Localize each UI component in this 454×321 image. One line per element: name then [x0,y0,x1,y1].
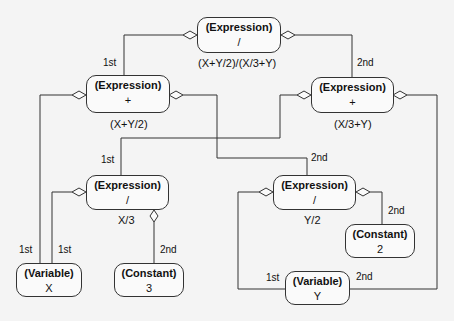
node-caption: (X+Y/2)/(X/3+Y) [198,57,276,69]
node-kind: (Variable) [17,266,81,281]
aggregation-diamond-icon [281,31,295,39]
node-value: 2 [346,242,414,257]
edge-label-plus-right-2nd: 2nd [356,271,373,283]
node-operator: / [274,193,355,208]
node-constant-3[interactable]: (Constant) 3 [114,263,184,297]
aggregation-diamond-icon [72,91,86,99]
edge-label-div-y2-1st: 1st [266,272,279,284]
edge-label-plus-right-1st: 1st [101,154,114,166]
edge-label-div-x3-1st: 1st [58,244,71,256]
aggregation-diamond-icon [393,91,407,99]
edge-label-plus-left-2nd: 2nd [311,152,328,164]
node-kind: (Expression) [274,178,355,193]
node-constant-2[interactable]: (Constant) 2 [345,224,415,258]
node-kind: (Expression) [87,78,169,93]
aggregation-diamond-icon [297,91,311,99]
node-caption: Y/2 [304,214,321,226]
edge-label-plus-left-1st: 1st [19,244,32,256]
edge-plus-left-div-y2 [183,95,307,175]
node-variable-x[interactable]: (Variable) X [16,263,82,297]
node-operator: + [87,93,169,108]
aggregation-diamond-icon [356,188,370,196]
edge-label-root-2nd: 2nd [357,57,374,69]
node-kind: (Expression) [312,80,393,95]
node-caption: (X+Y/2) [110,118,148,130]
edge-root-plus-right [295,35,352,77]
node-operator: / [198,35,280,50]
aggregation-diamond-icon [169,91,183,99]
aggregation-diamond-icon [72,188,86,196]
node-kind: (Constant) [115,266,183,281]
node-variable-y[interactable]: (Variable) Y [285,271,350,305]
aggregation-diamond-icon [259,188,273,196]
edge-div-y2-const-2 [370,192,382,224]
node-operator: + [312,95,393,110]
node-value: X [17,281,81,296]
node-kind: (Expression) [198,20,280,35]
node-caption: (X/3+Y) [334,118,372,130]
node-kind: (Variable) [286,274,349,289]
node-caption: X/3 [118,214,135,226]
node-value: 3 [115,281,183,296]
node-value: Y [286,289,349,304]
aggregation-diamond-icon [183,31,197,39]
aggregation-diamond-icon [150,210,158,222]
edge-plus-left-var-x [40,95,72,263]
node-div-y2-expression[interactable]: (Expression) / [273,175,356,210]
edge-label-div-x3-2nd: 2nd [160,244,177,256]
node-plus-right-expression[interactable]: (Expression) + [311,77,394,113]
node-div-x3-expression[interactable]: (Expression) / [86,175,169,210]
node-kind: (Constant) [346,227,414,242]
node-operator: / [87,193,168,208]
edge-root-plus-left [124,35,183,75]
node-kind: (Expression) [87,178,168,193]
node-root-expression[interactable]: (Expression) / [197,17,281,53]
node-plus-left-expression[interactable]: (Expression) + [86,75,170,113]
edge-label-root-1st: 1st [103,57,116,69]
edge-label-div-y2-2nd: 2nd [388,205,405,217]
